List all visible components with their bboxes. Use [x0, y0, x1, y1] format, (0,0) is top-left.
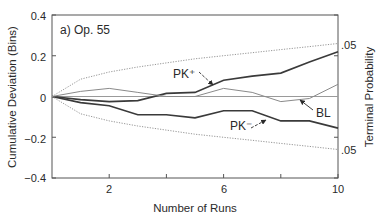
label-bl: BL	[316, 106, 331, 120]
right-tick-label-upper: .05	[341, 39, 356, 51]
label-pk-plus: PK⁺	[173, 67, 195, 81]
right-tick-label-lower: .05	[341, 144, 356, 156]
arrow-pk-plus-icon	[199, 72, 213, 85]
arrow-bl-icon	[300, 100, 313, 110]
y-tick-label: −0.2	[24, 133, 46, 145]
arrow-pk-minus-icon	[251, 120, 266, 128]
data-lines	[52, 44, 338, 150]
label-pk-minus: PK⁻	[230, 119, 252, 133]
y-axis-label-right: Terminal Probability	[363, 47, 375, 148]
cumulative-deviation-chart: a) Op. 55 0.4 0.2 0 −0.2 −0.4 2 6 10 .05…	[0, 0, 380, 217]
y-tick-label: 0.2	[31, 51, 46, 63]
y-axis-label: Cumulative Deviation (Bins)	[6, 26, 18, 168]
panel-title: a) Op. 55	[60, 23, 110, 37]
x-tick-label: 6	[221, 183, 227, 195]
y-tick-label: −0.4	[24, 172, 46, 184]
y-tick-label: 0	[40, 92, 46, 104]
x-axis-label: Number of Runs	[153, 202, 237, 214]
x-tick-label: 10	[332, 183, 344, 195]
x-tick-label: 2	[106, 183, 112, 195]
y-tick-label: 0.4	[31, 10, 46, 22]
